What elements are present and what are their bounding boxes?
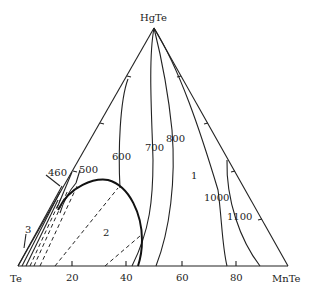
isotherm-label-460: 460: [48, 167, 67, 178]
region-label-1: 1: [191, 170, 197, 181]
tie-lines: [30, 184, 140, 266]
vertex-label-hgte: HgTe: [140, 12, 167, 23]
region-label-3: 3: [25, 224, 31, 235]
isotherm-label-600: 600: [112, 151, 131, 162]
tick-label-20: 20: [66, 272, 79, 283]
tick-label-80: 80: [230, 272, 243, 283]
vertex-label-mnte: MnTe: [272, 273, 301, 284]
isotherm-label-700: 700: [145, 142, 164, 153]
miscibility-gap-boundary: [58, 180, 142, 266]
isotherm-label-1000: 1000: [204, 192, 229, 203]
tick-label-40: 40: [120, 272, 133, 283]
leader-3: [24, 234, 26, 248]
region-label-2: 2: [103, 227, 109, 238]
isotherm-label-1100: 1100: [227, 211, 252, 222]
vertex-label-te: Te: [10, 273, 22, 284]
tick-label-60: 60: [176, 272, 189, 283]
isotherm-label-500: 500: [79, 164, 98, 175]
base-ticks: [72, 261, 236, 266]
isotherms: [18, 28, 260, 266]
isotherm-label-800: 800: [166, 133, 185, 144]
ternary-diagram: HgTe Te MnTe 20 40 60 80 460 500 600 700…: [0, 0, 309, 293]
